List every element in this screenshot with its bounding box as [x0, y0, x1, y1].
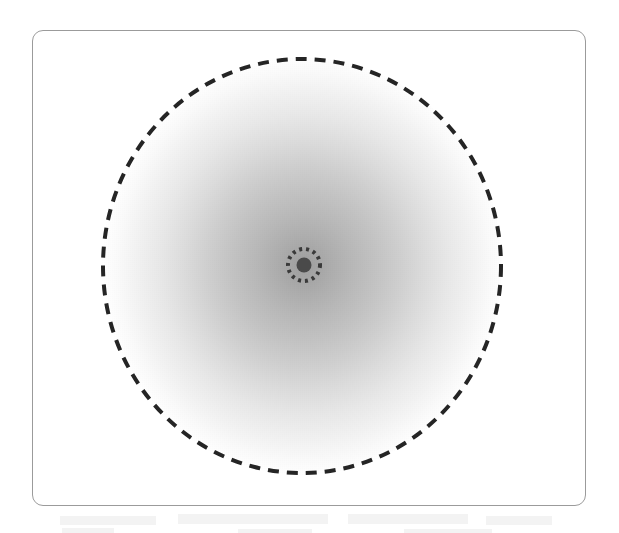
- ghost-band: [348, 514, 468, 524]
- ghost-band: [486, 516, 552, 525]
- ghost-band: [238, 529, 312, 533]
- center-core-dot: [297, 258, 312, 273]
- figure-canvas: [0, 0, 619, 533]
- ghost-band: [62, 528, 114, 533]
- circle-overlay-layer: [33, 31, 586, 506]
- ghost-band: [404, 529, 492, 533]
- ghost-band-group: [60, 514, 552, 533]
- ghost-band: [60, 516, 156, 525]
- ghost-band: [178, 514, 328, 524]
- figure-border: [32, 30, 586, 506]
